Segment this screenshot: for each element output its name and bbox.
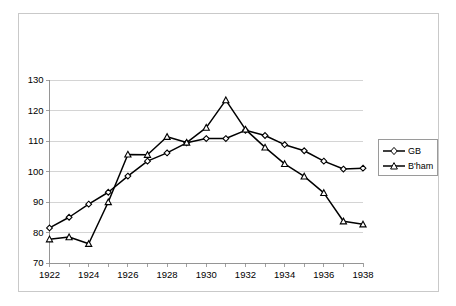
x-tick-label: 1938 [352,269,373,280]
x-tick-label: 1922 [39,269,60,280]
data-point-marker [321,158,327,164]
data-point-marker [47,225,53,231]
series-line [50,130,364,228]
y-tick-label: 100 [28,166,44,177]
chart-legend: GB B'ham [378,139,438,176]
data-point-marker [301,148,307,154]
x-tick-label: 1936 [313,269,334,280]
data-point-marker [360,221,366,227]
chart-container: 708090100110120130 192219241926192819301… [0,0,456,306]
x-tick-label: 1924 [78,269,99,280]
data-point-marker [223,136,229,142]
y-tick-label: 70 [33,257,44,268]
x-tick-label: 1928 [156,269,177,280]
legend-marker-triangle-icon [382,160,406,172]
y-tick-label: 110 [28,135,43,146]
legend-label-gb: GB [406,146,421,156]
legend-marker-diamond-icon [382,145,406,157]
y-tick-label: 80 [33,227,44,238]
axis-ticks-group [46,80,363,267]
data-point-marker [105,199,111,205]
data-point-marker [360,165,366,171]
y-tick-label: 120 [28,105,44,116]
data-point-marker [164,150,170,156]
x-tick-label: 1926 [117,269,138,280]
data-point-marker [262,133,268,139]
data-point-marker [66,234,72,240]
y-tick-label: 90 [33,196,44,207]
series-line [50,100,364,244]
data-point-marker [125,151,131,157]
legend-item-gb: GB [379,143,437,158]
data-point-marker [282,142,288,148]
x-axis-tick-labels: 192219241926192819301932193419361938 [39,269,374,280]
data-point-marker [341,166,347,172]
x-tick-label: 1930 [196,269,217,280]
x-tick-label: 1934 [274,269,295,280]
data-point-marker [86,241,92,247]
y-tick-label: 130 [28,74,44,85]
data-point-marker [164,134,170,140]
series-gb [47,127,366,230]
legend-item-bham: B'ham [379,158,437,173]
legend-label-bham: B'ham [406,161,433,171]
data-point-marker [223,97,229,103]
x-tick-label: 1932 [235,269,256,280]
y-axis-tick-labels: 708090100110120130 [28,74,44,268]
data-point-marker [203,136,209,142]
data-point-marker [46,236,52,242]
